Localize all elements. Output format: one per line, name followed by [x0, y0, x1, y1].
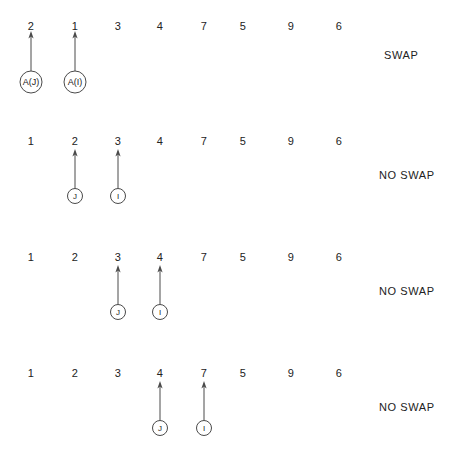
array-value-cell: 9	[279, 20, 303, 32]
pointer-i-marker: I	[88, 141, 148, 208]
pointer-arrowhead-icon	[157, 265, 162, 273]
pointer-circle	[68, 189, 83, 204]
pointer-circle	[197, 421, 212, 436]
array-value-cell: 6	[327, 135, 351, 147]
array-value-cell: 6	[327, 20, 351, 32]
pointer-arrowhead-icon	[28, 31, 33, 39]
array-value-cell: 7	[192, 251, 216, 263]
array-value-cell: 1	[19, 135, 43, 147]
array-value-cell: 1	[19, 367, 43, 379]
pointer-i-label: I	[88, 192, 148, 201]
pointer-j-label: J	[45, 192, 105, 201]
pointer-i-marker: I	[174, 373, 234, 440]
array-value-cell: 7	[192, 367, 216, 379]
array-value-cell: 4	[148, 135, 172, 147]
pointer-a-i-marker: A(I)	[45, 23, 105, 97]
array-value-cell: 6	[327, 251, 351, 263]
pointer-j-marker: J	[130, 373, 190, 440]
swap-verdict-label: SWAP	[384, 49, 418, 61]
array-value-cell: 2	[63, 367, 87, 379]
pointer-arrowhead-icon	[72, 31, 77, 39]
pointer-circle	[20, 71, 42, 93]
array-value-cell: 7	[192, 20, 216, 32]
pointer-j-marker: J	[88, 257, 148, 324]
pointer-circle	[153, 421, 168, 436]
array-value-cell: 4	[148, 251, 172, 263]
pointer-i-marker: I	[130, 257, 190, 324]
pointer-circle	[153, 305, 168, 320]
array-value-cell: 6	[327, 367, 351, 379]
pointer-circle	[64, 71, 86, 93]
swap-verdict-label: NO SWAP	[379, 169, 435, 181]
array-value-cell: 5	[231, 135, 255, 147]
array-value-cell: 3	[106, 251, 130, 263]
swap-verdict-label: NO SWAP	[379, 285, 435, 297]
sort-trace-diagram: 21347596SWAPA(J)A(I)12347596NO SWAPJI123…	[0, 0, 468, 462]
pointer-circle	[111, 305, 126, 320]
array-value-cell: 3	[106, 20, 130, 32]
array-value-cell: 7	[192, 135, 216, 147]
array-value-cell: 2	[19, 20, 43, 32]
array-value-cell: 9	[279, 367, 303, 379]
array-value-cell: 9	[279, 135, 303, 147]
array-value-cell: 5	[231, 367, 255, 379]
pointer-a-j-label: A(J)	[1, 78, 61, 87]
array-value-cell: 4	[148, 367, 172, 379]
pointer-arrowhead-icon	[201, 381, 206, 389]
pointer-i-label: I	[130, 308, 190, 317]
pointer-arrowhead-icon	[115, 265, 120, 273]
pointer-j-label: J	[130, 424, 190, 433]
array-value-cell: 3	[106, 367, 130, 379]
pointer-arrowhead-icon	[157, 381, 162, 389]
pointer-a-i-label: A(I)	[45, 78, 105, 87]
pointer-i-label: I	[174, 424, 234, 433]
swap-verdict-label: NO SWAP	[379, 401, 435, 413]
array-value-cell: 4	[148, 20, 172, 32]
pointer-arrowhead-icon	[72, 149, 77, 157]
pointer-circle	[111, 189, 126, 204]
pointer-a-j-marker: A(J)	[1, 23, 61, 97]
array-value-cell: 5	[231, 20, 255, 32]
array-value-cell: 1	[63, 20, 87, 32]
array-value-cell: 2	[63, 135, 87, 147]
array-value-cell: 5	[231, 251, 255, 263]
array-value-cell: 9	[279, 251, 303, 263]
pointer-arrowhead-icon	[115, 149, 120, 157]
pointer-j-label: J	[88, 308, 148, 317]
array-value-cell: 2	[63, 251, 87, 263]
array-value-cell: 1	[19, 251, 43, 263]
pointer-j-marker: J	[45, 141, 105, 208]
array-value-cell: 3	[106, 135, 130, 147]
